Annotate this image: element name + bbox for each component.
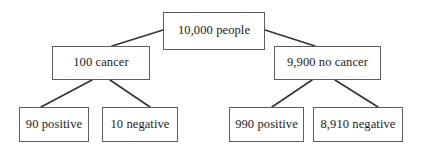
node-no-cancer-positive: 990 positive — [229, 107, 304, 142]
node-total-people-label: 10,000 people — [178, 24, 250, 38]
node-no-cancer-negative: 8,910 negative — [313, 107, 403, 142]
node-no-cancer-negative-label: 8,910 negative — [321, 118, 396, 132]
node-cancer-negative: 10 negative — [102, 107, 178, 142]
node-total-people: 10,000 people — [163, 12, 265, 50]
edge-cancer-to-positive — [41, 80, 92, 107]
edge-no-cancer-to-negative — [335, 80, 378, 107]
edge-no-cancer-to-positive — [272, 80, 312, 107]
node-no-cancer-label: 9,900 no cancer — [287, 56, 368, 70]
tree-diagram-canvas: 10,000 people 100 cancer 9,900 no cancer… — [0, 0, 421, 158]
edge-cancer-to-negative — [110, 80, 150, 107]
edge-root-to-no-cancer — [265, 30, 315, 46]
node-no-cancer-positive-label: 990 positive — [235, 118, 298, 132]
node-cancer-negative-label: 10 negative — [110, 118, 169, 132]
node-cancer-positive-label: 90 positive — [26, 118, 82, 132]
node-cancer-positive: 90 positive — [19, 107, 89, 142]
node-cancer: 100 cancer — [52, 46, 150, 80]
edge-root-to-cancer — [112, 30, 163, 46]
node-cancer-label: 100 cancer — [73, 56, 128, 70]
node-no-cancer: 9,900 no cancer — [274, 46, 381, 80]
